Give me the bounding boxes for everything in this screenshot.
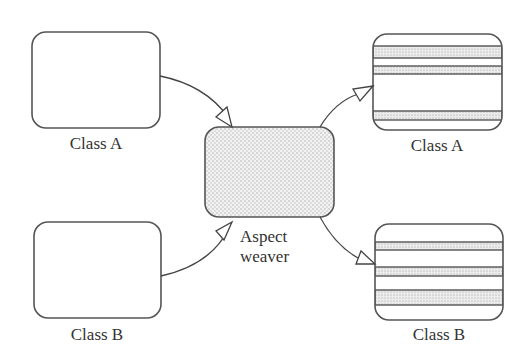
output-class-b-label: Class B [413, 325, 465, 344]
woven-aspect-band [373, 46, 502, 58]
aspect-weaving-diagram: Class A Class B Aspect weaver Class A Cl… [0, 0, 531, 360]
woven-aspect-band [375, 242, 503, 250]
arrow-weaver-to-class-a [320, 94, 358, 127]
aspect-weaver-box [205, 127, 334, 217]
arrowhead-icon [216, 107, 232, 127]
arrowhead-icon [353, 86, 373, 101]
output-class-a: Class A [373, 34, 502, 155]
input-class-b-label: Class B [71, 325, 123, 344]
output-class-a-label: Class A [411, 136, 464, 155]
woven-aspect-band [373, 111, 502, 120]
woven-aspect-band [375, 267, 503, 276]
input-class-a: Class A [32, 32, 160, 153]
arrowhead-icon [216, 222, 232, 240]
aspect-weaver: Aspect weaver [205, 127, 334, 266]
woven-aspect-band [373, 66, 502, 74]
woven-aspect-band [375, 290, 503, 305]
aspect-weaver-label-line1: Aspect [240, 227, 287, 246]
aspect-weaver-label-line2: weaver [240, 247, 289, 266]
input-class-b-box [34, 222, 161, 318]
arrow-class-b-to-weaver [161, 230, 228, 276]
arrow-weaver-to-class-b [320, 217, 358, 258]
input-class-a-box [32, 32, 160, 128]
output-class-b: Class B [375, 224, 503, 344]
arrowhead-icon [356, 251, 375, 264]
input-class-a-label: Class A [70, 134, 123, 153]
arrow-class-a-to-weaver [160, 76, 228, 117]
input-class-b: Class B [34, 222, 161, 344]
